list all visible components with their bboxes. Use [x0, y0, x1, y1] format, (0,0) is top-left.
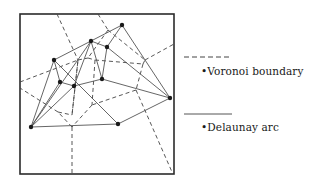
- site-point: [58, 80, 62, 84]
- delaunay-arc: [107, 25, 122, 47]
- site-points: [29, 23, 172, 129]
- site-point: [120, 23, 124, 27]
- site-point: [89, 39, 93, 43]
- voronoi-boundary: [78, 58, 88, 60]
- voronoi-boundary: [20, 60, 78, 82]
- delaunay-arc: [74, 41, 91, 86]
- delaunay-arc: [102, 47, 107, 79]
- site-point: [116, 122, 120, 126]
- legend-voronoi: •Voronoi boundary: [201, 65, 303, 77]
- delaunay-arc: [31, 86, 74, 127]
- delaunay-arc: [54, 60, 118, 124]
- delaunay-arcs: [31, 25, 170, 127]
- voronoi-boundary: [88, 58, 95, 60]
- legend-voronoi-label: Voronoi boundary: [207, 65, 303, 77]
- site-point: [100, 77, 104, 81]
- voronoi-boundary: [58, 112, 72, 127]
- site-point: [168, 96, 172, 100]
- delaunay-arc: [118, 98, 170, 124]
- legend-delaunay-label: Delaunay arc: [207, 121, 279, 133]
- delaunay-arc: [31, 124, 118, 127]
- voronoi-boundary: [20, 88, 58, 112]
- delaunay-arc: [54, 41, 91, 60]
- voronoi-boundary: [72, 105, 92, 127]
- voronoi-boundary: [136, 64, 143, 90]
- delaunay-arc: [31, 60, 54, 127]
- legend-delaunay: •Delaunay arc: [201, 121, 279, 133]
- voronoi-delaunay-diagram: [0, 0, 320, 187]
- site-point: [52, 58, 56, 62]
- voronoi-boundary: [145, 44, 174, 60]
- site-point: [105, 45, 109, 49]
- delaunay-arc: [107, 47, 170, 98]
- voronoi-boundary: [136, 90, 172, 172]
- voronoi-boundary: [108, 30, 145, 60]
- voronoi-boundary: [95, 60, 143, 64]
- site-point: [29, 125, 33, 129]
- voronoi-boundary: [143, 60, 145, 64]
- delaunay-arc: [91, 41, 102, 79]
- site-point: [72, 84, 76, 88]
- voronoi-boundary: [92, 90, 136, 105]
- delaunay-arc: [74, 79, 102, 86]
- voronoi-boundary: [98, 14, 108, 30]
